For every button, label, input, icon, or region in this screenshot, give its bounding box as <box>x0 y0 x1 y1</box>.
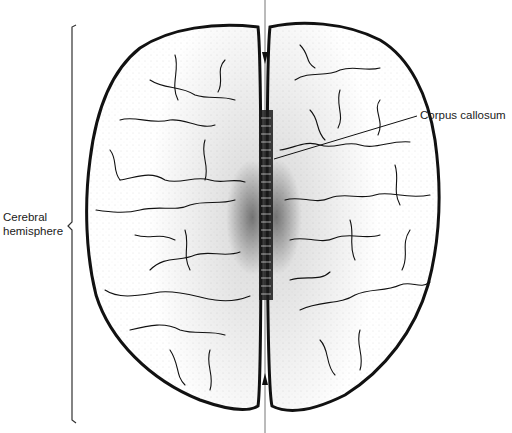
corpus-callosum <box>259 110 273 300</box>
corpus-callosum-label: Corpus callosum <box>420 108 506 122</box>
cerebral-hemisphere-bracket <box>68 25 76 423</box>
brain-diagram <box>0 0 512 433</box>
cerebral-hemisphere-label: Cerebral hemisphere <box>3 210 63 238</box>
arrowhead-bottom-icon <box>262 373 268 385</box>
left-hemisphere <box>87 25 261 409</box>
right-hemisphere <box>267 23 439 410</box>
cerebral-hemisphere-label-line2: hemisphere <box>3 224 63 238</box>
cerebral-hemisphere-label-line1: Cerebral <box>3 210 63 224</box>
